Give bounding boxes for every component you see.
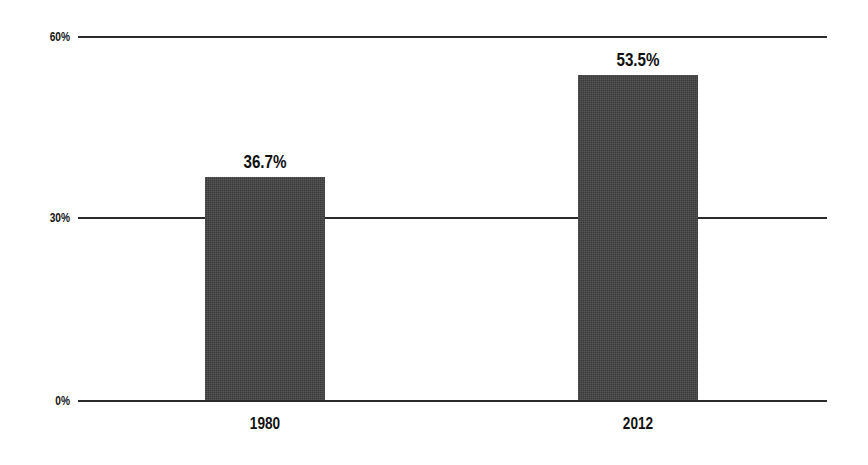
x-axis-tick-label-1980: 1980 — [201, 414, 329, 434]
bar-value-label-2012: 53.5% — [574, 49, 702, 71]
y-axis-tick-label-60: 60% — [15, 29, 70, 44]
bar-2012[interactable] — [578, 75, 698, 400]
axis-baseline-0 — [78, 400, 827, 402]
x-axis-tick-label-2012: 2012 — [574, 414, 702, 434]
y-axis-tick-label-30: 30% — [15, 210, 70, 225]
gridline-30 — [78, 217, 827, 219]
gridline-60 — [78, 36, 827, 38]
y-axis-tick-label-0: 0% — [15, 393, 70, 408]
bar-value-label-1980: 36.7% — [201, 151, 329, 173]
bar-1980[interactable] — [205, 177, 325, 400]
bar-chart: 60% 30% 0% 36.7% 53.5% 1980 2012 — [0, 0, 868, 465]
